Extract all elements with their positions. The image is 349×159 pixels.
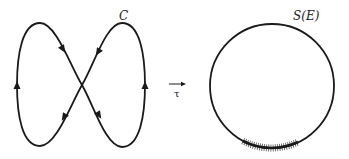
right-lobe (82, 23, 145, 147)
arrow-icon (93, 47, 103, 57)
arrow-icon (142, 81, 149, 89)
figure-eight-curve (17, 23, 145, 147)
arrow-icon (14, 81, 21, 89)
diagram-canvas: C τ S(E) (0, 0, 349, 159)
circle-s-e (210, 24, 334, 148)
circle-label: S(E) (293, 9, 320, 23)
mapping-label: τ (174, 88, 180, 99)
arrow-icon (181, 82, 186, 86)
mapping-arrow (169, 82, 186, 86)
left-lobe (17, 23, 82, 146)
hatched-arc (243, 141, 298, 148)
curve-label: C (119, 9, 128, 23)
